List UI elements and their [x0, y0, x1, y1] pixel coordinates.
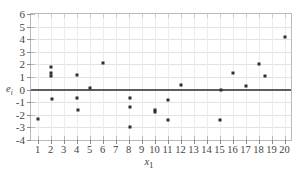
x-axis-tick-top [116, 14, 117, 18]
x-axis-tick-inner [259, 136, 260, 140]
data-point [37, 117, 40, 120]
x-axis-tick-inner [90, 136, 91, 140]
x-axis-tick-label: 8 [126, 144, 131, 155]
y-axis-tick-label: 1 [20, 72, 26, 83]
x-axis-tick-top [259, 14, 260, 18]
x-axis-tick-label: 9 [139, 144, 144, 155]
y-axis-tick-inner [31, 77, 35, 78]
data-point [219, 88, 222, 91]
x-axis-tick-label: 16 [227, 144, 238, 155]
x-gridline [233, 14, 234, 140]
y-axis-tick-inner [31, 27, 35, 28]
x-axis-tick-label: 14 [201, 144, 212, 155]
x-axis-tick-inner [129, 136, 130, 140]
data-point [219, 118, 222, 121]
x-axis-tick-top [233, 14, 234, 18]
x-axis-tick-top [51, 14, 52, 18]
x-axis-tick-top [168, 14, 169, 18]
data-point [179, 83, 182, 86]
x-gridline [129, 14, 130, 140]
x-gridline [77, 14, 78, 140]
x-axis-tick-label: 6 [100, 144, 105, 155]
x-gridline [246, 14, 247, 140]
data-point [50, 98, 53, 101]
x-axis-tick-top [155, 14, 156, 18]
x-axis-tick-inner [285, 136, 286, 140]
y-axis-title-subscript: i [11, 88, 13, 97]
x-axis-tick-label: 20 [279, 144, 290, 155]
data-point [76, 97, 79, 100]
x-axis-tick-inner [64, 136, 65, 140]
y-gridline [31, 39, 291, 40]
x-axis-tick-top [103, 14, 104, 18]
y-axis-tick-label: 3 [20, 46, 26, 57]
y-axis-tick-inner [31, 39, 35, 40]
x-axis-tick-top [246, 14, 247, 18]
x-axis-title: x1 [0, 156, 298, 170]
x-axis-tick-top [129, 14, 130, 18]
x-axis-tick-label: 18 [253, 144, 264, 155]
x-axis-tick-top [272, 14, 273, 18]
x-axis-tick-label: 4 [74, 144, 79, 155]
x-axis-tick-inner [155, 136, 156, 140]
x-axis-tick-top [194, 14, 195, 18]
x-gridline [90, 14, 91, 140]
y-axis-tick-label: 4 [20, 34, 26, 45]
plot-area: -4-3-2-101234561234567891011121314151617… [30, 13, 292, 141]
y-axis-tick-label: -1 [16, 97, 25, 108]
y-axis-tick-inner [31, 64, 35, 65]
y-gridline [31, 52, 291, 53]
data-point [102, 61, 105, 64]
residual-scatter-figure: ei -4-3-2-101234561234567891011121314151… [0, 0, 298, 175]
data-point [76, 108, 79, 111]
x-axis-tick-top [38, 14, 39, 18]
x-axis-tick-inner [51, 136, 52, 140]
x-axis-tick-top [220, 14, 221, 18]
data-point [166, 98, 169, 101]
x-axis-tick-label: 7 [113, 144, 118, 155]
x-axis-tick-top [181, 14, 182, 18]
x-axis-tick-inner [142, 136, 143, 140]
y-axis-tick-label: 2 [20, 59, 26, 70]
y-axis-tick-label: -2 [16, 109, 25, 120]
x-axis-tick-inner [272, 136, 273, 140]
x-axis-tick-inner [38, 136, 39, 140]
x-axis-tick-label: 11 [162, 144, 172, 155]
y-gridline [31, 127, 291, 128]
y-gridline [31, 115, 291, 116]
x-axis-tick-label: 17 [240, 144, 251, 155]
zero-reference-line [31, 89, 291, 91]
x-axis-tick-top [285, 14, 286, 18]
y-axis-tick-label: 6 [20, 9, 26, 20]
x-axis-tick-label: 19 [266, 144, 277, 155]
x-axis-tick-inner [246, 136, 247, 140]
y-axis-tick-inner [31, 52, 35, 53]
x-gridline [181, 14, 182, 140]
x-axis-tick-top [90, 14, 91, 18]
data-point [89, 87, 92, 90]
x-axis-tick-label: 5 [87, 144, 92, 155]
x-gridline [259, 14, 260, 140]
y-axis-tick-label: 0 [20, 84, 26, 95]
x-axis-tick-inner [168, 136, 169, 140]
data-point [49, 75, 52, 78]
x-axis-tick-label: 10 [149, 144, 160, 155]
x-axis-tick-top [142, 14, 143, 18]
x-axis-tick-inner [77, 136, 78, 140]
x-gridline [207, 14, 208, 140]
x-gridline [155, 14, 156, 140]
x-axis-tick-top [207, 14, 208, 18]
x-axis-tick-label: 3 [61, 144, 66, 155]
x-gridline [194, 14, 195, 140]
x-axis-tick-label: 12 [175, 144, 186, 155]
x-gridline [285, 14, 286, 140]
y-axis-tick-inner [31, 140, 35, 141]
x-gridline [103, 14, 104, 140]
y-axis-tick-label: -3 [16, 122, 25, 133]
data-point [245, 85, 248, 88]
y-gridline [31, 27, 291, 28]
data-point [49, 65, 52, 68]
y-axis-tick-inner [31, 14, 35, 15]
x-axis-tick-label: 1 [35, 144, 40, 155]
data-point [167, 118, 170, 121]
